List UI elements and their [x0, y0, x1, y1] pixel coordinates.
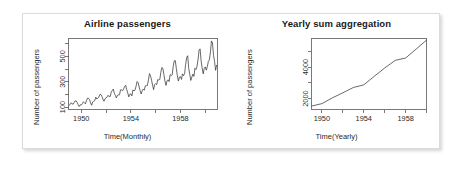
plot-area-right: 19501954195820004000: [232, 14, 441, 148]
y-tick-label: 100: [58, 101, 67, 113]
y-tick-label: 4000: [301, 59, 310, 75]
chart-airline-passengers: Airline passengers Number of passengers …: [23, 14, 232, 148]
x-tick-label: 1954: [123, 114, 139, 123]
figure-root: Airline passengers Number of passengers …: [0, 0, 465, 170]
series-line: [69, 41, 217, 107]
plot-area-left: 195019541958100300500: [23, 14, 232, 148]
x-tick-label: 1958: [397, 114, 413, 123]
x-tick-label: 1954: [356, 114, 372, 123]
chart-yearly-sum-aggregation: Yearly sum aggregation Number of passeng…: [232, 14, 441, 148]
series-line: [311, 40, 426, 106]
x-tick-label: 1950: [73, 114, 89, 123]
y-tick-label: 2000: [301, 90, 310, 106]
x-tick-label: 1958: [172, 114, 188, 123]
x-tick-label: 1950: [314, 114, 330, 123]
y-tick-label: 500: [58, 50, 67, 62]
plot-box: [311, 39, 426, 110]
y-tick-label: 300: [58, 76, 67, 88]
figure-panel: Airline passengers Number of passengers …: [22, 13, 440, 149]
plot-box: [69, 39, 218, 110]
